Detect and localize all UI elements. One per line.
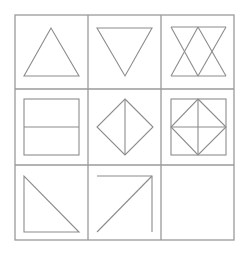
cell-r1c3-hourglass-triangles-icon [171,27,226,76]
cell-r2c3-square-diamond-cross-icon [171,99,226,155]
cell-r3c2-open-angle-diagonal-icon [97,176,152,232]
cell-r1c2-triangle-down-icon [97,28,152,76]
pattern-matrix-puzzle [0,0,247,254]
cell-r2c1-divided-rectangle-icon [24,99,79,155]
cell-r3c1-right-triangle-icon [24,176,79,232]
cell-r1c1-triangle-up-icon [24,28,79,76]
cell-r2c2-divided-diamond-icon [97,99,153,155]
answer-cell-empty[interactable] [162,166,233,239]
matrix-canvas [0,0,247,254]
